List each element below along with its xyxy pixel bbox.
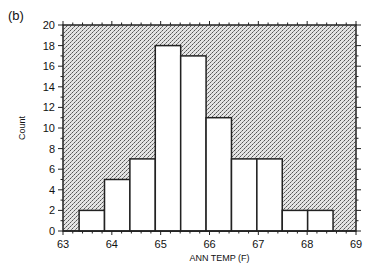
x-tick-label: 63	[57, 238, 69, 250]
x-tick-label: 69	[350, 238, 362, 250]
x-tick-label: 67	[252, 238, 264, 250]
histogram-bar	[105, 180, 130, 232]
histogram-bar	[155, 46, 180, 231]
y-tick-label: 2	[49, 204, 55, 216]
histogram-bar	[231, 159, 256, 231]
histogram-bar	[181, 56, 206, 231]
y-tick-label: 4	[49, 184, 55, 196]
y-tick-label: 16	[43, 60, 55, 72]
y-tick-label: 12	[43, 101, 55, 113]
histogram-bar	[282, 210, 307, 231]
histogram-chart: 63646566676869 02468101214161820 ANN TEM…	[0, 0, 373, 265]
y-tick-label: 8	[49, 143, 55, 155]
y-tick-label: 18	[43, 40, 55, 52]
y-axis-title: Count	[17, 116, 27, 141]
x-tick-label: 65	[155, 238, 167, 250]
x-tick-label: 64	[106, 238, 118, 250]
y-tick-label: 6	[49, 163, 55, 175]
y-tick-label: 0	[49, 225, 55, 237]
x-axis-title: ANN TEMP (F)	[189, 253, 249, 263]
histogram-bar	[257, 159, 282, 231]
y-tick-label: 20	[43, 19, 55, 31]
histogram-bar	[206, 118, 231, 231]
y-tick-label: 10	[43, 122, 55, 134]
y-tick-label: 14	[43, 81, 55, 93]
x-tick-label: 66	[203, 238, 215, 250]
histogram-bar	[79, 210, 104, 231]
histogram-bar	[130, 159, 155, 231]
histogram-bar	[308, 210, 333, 231]
x-tick-label: 68	[301, 238, 313, 250]
